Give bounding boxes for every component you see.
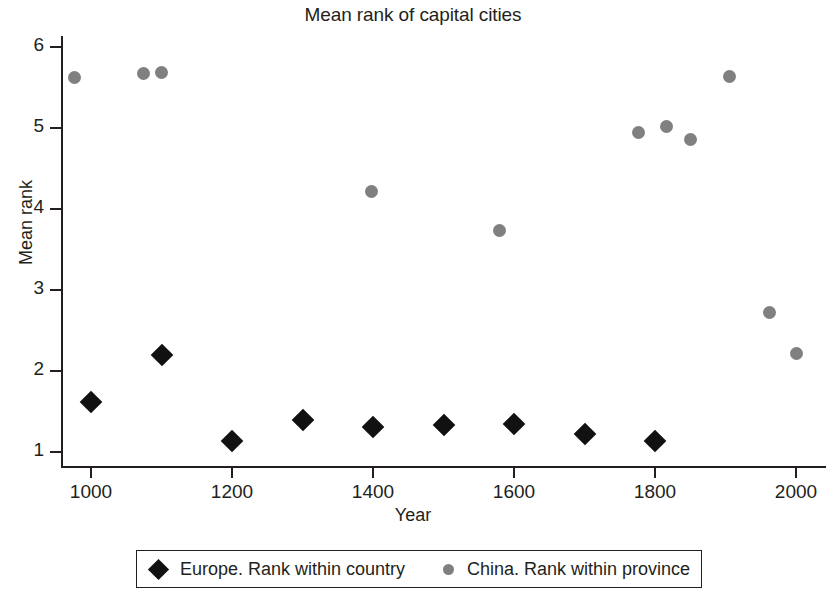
y-tick-label: 5 bbox=[18, 115, 44, 137]
y-tick-label: 4 bbox=[18, 196, 44, 218]
data-point-diamond bbox=[291, 408, 314, 431]
legend-item-europe: Europe. Rank within country bbox=[151, 556, 405, 582]
data-point-diamond bbox=[150, 343, 173, 366]
data-point-circle bbox=[790, 347, 803, 360]
data-point-circle bbox=[365, 185, 378, 198]
scatter-chart: Mean rank of capital cities Mean rank Ye… bbox=[0, 0, 826, 589]
data-point-diamond bbox=[503, 413, 526, 436]
legend-item-china: China. Rank within province bbox=[441, 556, 690, 582]
y-tick-label: 2 bbox=[18, 358, 44, 380]
x-tick-label: 1800 bbox=[620, 481, 690, 503]
y-tick-mark bbox=[50, 46, 61, 48]
y-axis-label: Mean rank bbox=[16, 153, 37, 293]
data-point-circle bbox=[493, 224, 506, 237]
y-tick-mark bbox=[50, 127, 61, 129]
data-point-diamond bbox=[432, 414, 455, 437]
data-point-diamond bbox=[362, 416, 385, 439]
y-axis-line bbox=[61, 36, 63, 467]
x-tick-label: 1200 bbox=[197, 481, 267, 503]
x-tick-label: 1000 bbox=[56, 481, 126, 503]
y-tick-mark bbox=[50, 289, 61, 291]
y-tick-mark bbox=[50, 208, 61, 210]
x-tick-mark bbox=[231, 468, 233, 478]
data-point-circle bbox=[137, 67, 150, 80]
data-point-diamond bbox=[221, 430, 244, 453]
x-tick-mark bbox=[513, 468, 515, 478]
y-tick-mark bbox=[50, 451, 61, 453]
x-tick-label: 1600 bbox=[479, 481, 549, 503]
data-point-circle bbox=[660, 120, 673, 133]
data-point-circle bbox=[68, 71, 81, 84]
data-point-circle bbox=[684, 133, 697, 146]
y-tick-label: 1 bbox=[18, 439, 44, 461]
chart-legend: Europe. Rank within country China. Rank … bbox=[136, 550, 702, 588]
circle-marker-icon bbox=[443, 564, 454, 575]
x-tick-mark bbox=[654, 468, 656, 478]
data-point-diamond bbox=[573, 423, 596, 446]
data-point-circle bbox=[155, 66, 168, 79]
x-tick-label: 2000 bbox=[761, 481, 826, 503]
legend-label-china: China. Rank within province bbox=[467, 559, 690, 580]
data-point-diamond bbox=[80, 390, 103, 413]
y-tick-label: 3 bbox=[18, 277, 44, 299]
y-tick-mark bbox=[50, 370, 61, 372]
y-tick-label: 6 bbox=[18, 34, 44, 56]
legend-label-europe: Europe. Rank within country bbox=[180, 559, 405, 580]
x-tick-label: 1400 bbox=[338, 481, 408, 503]
data-point-circle bbox=[632, 126, 645, 139]
x-tick-mark bbox=[795, 468, 797, 478]
data-point-diamond bbox=[644, 430, 667, 453]
data-point-circle bbox=[763, 306, 776, 319]
x-axis-label: Year bbox=[0, 505, 826, 526]
x-axis-line bbox=[61, 466, 826, 468]
x-tick-mark bbox=[90, 468, 92, 478]
data-point-circle bbox=[723, 70, 736, 83]
x-tick-mark bbox=[372, 468, 374, 478]
diamond-marker-icon bbox=[148, 558, 169, 579]
chart-title: Mean rank of capital cities bbox=[0, 4, 826, 26]
